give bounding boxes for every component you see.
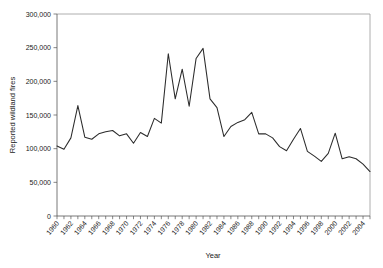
plot-frame-path [57, 14, 370, 216]
x-tick-label: 1976 [156, 220, 171, 237]
y-axis-title: Reported wildland fires [8, 77, 17, 154]
y-tick-label: 300,000 [26, 11, 51, 18]
x-tick-label: 1994 [281, 220, 296, 237]
plot-frame [57, 14, 370, 216]
y-axis-ticks [54, 14, 58, 216]
wildland-fires-line-chart: 050,000100,000150,000200,000250,000300,0… [0, 0, 383, 268]
y-tick-label: 100,000 [26, 145, 51, 152]
x-tick-label: 2000 [323, 220, 338, 237]
x-tick-label: 1998 [309, 220, 324, 237]
x-tick-label: 2002 [337, 220, 352, 237]
y-tick-label: 0 [47, 213, 51, 220]
chart-container: 050,000100,000150,000200,000250,000300,0… [0, 0, 383, 268]
x-axis-title: Year [205, 251, 221, 260]
x-tick-label: 1984 [212, 220, 227, 237]
x-tick-label: 1980 [184, 220, 199, 237]
x-tick-label: 1960 [45, 220, 60, 237]
x-tick-label: 2004 [351, 220, 366, 237]
x-axis-tick-labels: 1960196219641966196819701972197419761978… [45, 220, 366, 237]
y-tick-label: 150,000 [26, 112, 51, 119]
x-tick-label: 1964 [73, 220, 88, 237]
x-tick-label: 1978 [170, 220, 185, 237]
x-tick-label: 1996 [295, 220, 310, 237]
y-tick-label: 50,000 [30, 179, 52, 186]
x-tick-label: 1970 [114, 220, 129, 237]
data-series-group [57, 48, 370, 171]
y-axis-tick-labels: 050,000100,000150,000200,000250,000300,0… [26, 11, 51, 220]
x-tick-label: 1982 [198, 220, 213, 237]
x-tick-label: 1990 [254, 220, 269, 237]
x-tick-label: 1968 [101, 220, 116, 237]
y-tick-label: 250,000 [26, 44, 51, 51]
x-tick-label: 1986 [226, 220, 241, 237]
axes [57, 14, 370, 216]
x-tick-label: 1988 [240, 220, 255, 237]
x-tick-label: 1974 [142, 220, 157, 237]
x-tick-label: 1962 [59, 220, 74, 237]
y-tick-label: 200,000 [26, 78, 51, 85]
x-tick-label: 1972 [128, 220, 143, 237]
x-axis-ticks [57, 216, 370, 219]
series-line-reported-wildland-fires [57, 48, 370, 171]
x-tick-label: 1992 [267, 220, 282, 237]
x-tick-label: 1966 [87, 220, 102, 237]
